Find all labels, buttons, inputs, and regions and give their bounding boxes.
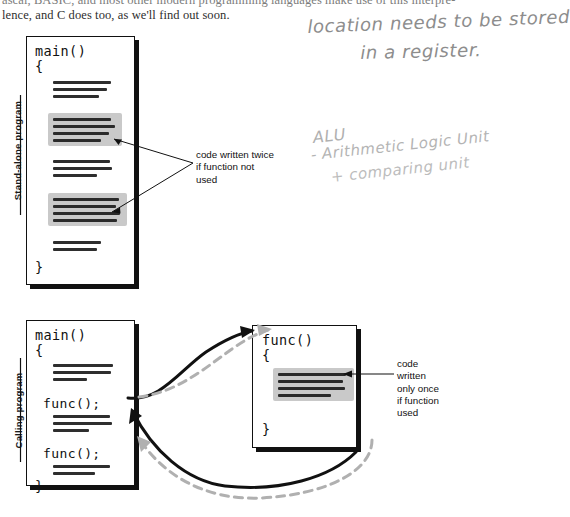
callout-twice-line-2: if function not bbox=[196, 161, 274, 173]
standalone-close-brace: } bbox=[35, 259, 44, 275]
return-arrow-2 bbox=[140, 440, 372, 498]
standalone-shaded-code-block-2 bbox=[48, 193, 127, 226]
callout-once-line-5: used bbox=[397, 407, 439, 419]
func-definition-code-box: func() { } bbox=[252, 325, 357, 448]
handwritten-note-location-line-1: location needs to be stored bbox=[307, 6, 570, 37]
func-open-brace: { bbox=[262, 347, 271, 363]
calling-open-brace: { bbox=[35, 342, 44, 358]
callout-once-line-2: written bbox=[397, 370, 439, 382]
callout-once-line-3: only once bbox=[397, 383, 439, 395]
callout-code-written-once: code written only once if function used bbox=[397, 358, 439, 419]
standalone-main-title: main() bbox=[35, 43, 86, 59]
section-label-calling-program: Calling program bbox=[13, 361, 24, 461]
calling-main-title: main() bbox=[35, 327, 86, 343]
callout-twice-line-3: used bbox=[196, 174, 274, 186]
func-title: func() bbox=[262, 332, 313, 348]
callout-once-line-4: if function bbox=[397, 395, 439, 407]
calling-plain-code-block-1 bbox=[53, 364, 115, 381]
calling-main-code-box: main() { func(); func(); } bbox=[26, 320, 135, 486]
return-arrow-1 bbox=[139, 330, 268, 397]
stand-alone-main-code-box: main() { } bbox=[26, 36, 135, 285]
calling-plain-code-block-2 bbox=[53, 415, 115, 432]
standalone-plain-code-block-1 bbox=[53, 81, 113, 98]
standalone-plain-code-block-3 bbox=[53, 241, 113, 251]
func-shaded-code-block-1 bbox=[273, 368, 354, 401]
calling-func-call-1: func(); bbox=[43, 396, 101, 411]
calling-func-call-2: func(); bbox=[43, 446, 101, 461]
callout-twice-line-1: code written twice bbox=[196, 149, 274, 161]
callout-once-line-1: code bbox=[397, 358, 439, 370]
book-body-text-line-1: ascal, BASIC, and most other modern prog… bbox=[2, 0, 455, 8]
call-arrow-1 bbox=[128, 331, 252, 398]
calling-plain-code-block-3 bbox=[53, 465, 115, 475]
book-body-text-line-2: lence, and C does too, as we'll find out… bbox=[2, 8, 230, 23]
standalone-plain-code-block-2 bbox=[53, 160, 113, 177]
return-arrow-2-head bbox=[137, 436, 151, 452]
standalone-open-brace: { bbox=[35, 58, 44, 74]
func-close-brace: } bbox=[262, 421, 271, 437]
section-label-stand-alone-program: Stand-alone program bbox=[12, 96, 23, 206]
calling-close-brace: } bbox=[35, 478, 44, 494]
handwritten-note-location-line-2: in a register. bbox=[360, 39, 482, 63]
standalone-shaded-code-block-1 bbox=[48, 113, 122, 146]
callout-code-written-twice: code written twice if function not used bbox=[196, 149, 274, 186]
